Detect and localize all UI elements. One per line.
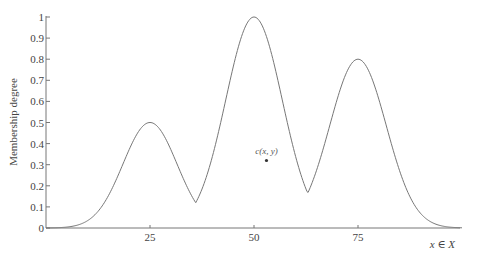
point-c-marker bbox=[265, 159, 268, 162]
y-tick-label: 0.7 bbox=[30, 74, 44, 86]
y-tick-label: 0.8 bbox=[30, 53, 44, 65]
y-axis-ticks: 00.10.20.30.40.50.60.70.80.91 bbox=[30, 11, 50, 234]
y-tick-label: 0.3 bbox=[30, 159, 44, 171]
y-tick-label: 0.1 bbox=[30, 201, 44, 213]
y-tick-label: 0.6 bbox=[30, 95, 44, 107]
x-axis-label: x ∈ X bbox=[429, 238, 457, 250]
point-c-label: c(x, y) bbox=[255, 146, 277, 156]
y-axis-label: Membership degree bbox=[7, 78, 19, 166]
y-tick-label: 0.9 bbox=[30, 32, 44, 44]
y-tick-label: 1 bbox=[39, 11, 45, 23]
y-tick-label: 0.5 bbox=[30, 117, 44, 129]
y-tick-label: 0.4 bbox=[30, 138, 44, 150]
y-tick-label: 0 bbox=[39, 222, 45, 234]
y-tick-label: 0.2 bbox=[30, 180, 44, 192]
x-tick-label: 75 bbox=[353, 231, 365, 243]
x-tick-label: 25 bbox=[145, 231, 157, 243]
membership-chart: 00.10.20.30.40.50.60.70.80.91 255075 Mem… bbox=[0, 0, 482, 254]
membership-curve bbox=[46, 17, 462, 228]
x-tick-label: 50 bbox=[249, 231, 261, 243]
